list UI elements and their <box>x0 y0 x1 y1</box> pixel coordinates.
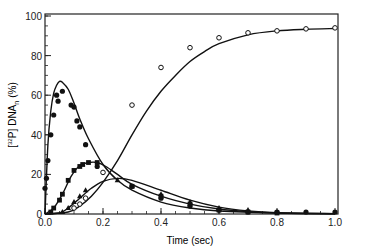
y-tick-label: 100 <box>25 11 42 22</box>
chart-canvas: 0.00.20.40.60.81.0020406080100 Time (sec… <box>0 0 372 251</box>
x-tick-label: 0.6 <box>212 217 226 228</box>
data-point-open-circle <box>101 170 106 175</box>
y-tick-label: 80 <box>31 51 43 62</box>
x-tick-label: 0.4 <box>154 217 168 228</box>
x-tick-label: 1.0 <box>328 217 342 228</box>
data-point-filled-square <box>95 160 100 165</box>
y-tick-label: 20 <box>31 169 43 180</box>
data-point-open-circle <box>333 26 338 31</box>
data-point-filled-square <box>72 168 77 173</box>
data-point-open-circle <box>78 202 83 207</box>
data-point-open-circle <box>246 31 251 36</box>
data-point-filled-circle <box>303 209 308 214</box>
data-point-filled-circle <box>55 99 60 104</box>
data-point-filled-circle <box>83 142 88 147</box>
data-point-filled-triangle <box>158 191 164 196</box>
data-point-filled-triangle <box>83 187 89 192</box>
data-point-open-circle <box>188 45 193 50</box>
data-point-open-circle <box>304 27 309 32</box>
data-point-filled-square <box>51 206 56 211</box>
plot-axes: 0.00.20.40.60.81.0020406080100 <box>25 11 342 228</box>
data-point-filled-circle <box>71 104 76 109</box>
y-axis-title: [32P]DNAn(%) <box>7 82 20 148</box>
x-tick-label: 0.2 <box>96 217 110 228</box>
data-point-filled-circle <box>332 209 337 214</box>
data-points <box>42 26 337 216</box>
data-point-filled-square <box>80 162 85 167</box>
data-point-filled-square <box>66 178 71 183</box>
plot-frame <box>45 14 338 214</box>
data-point-filled-square <box>60 192 65 197</box>
fitted-curves <box>45 28 335 214</box>
data-point-open-circle <box>275 29 280 34</box>
y-tick-label: 0 <box>36 209 42 220</box>
data-point-filled-triangle <box>245 207 251 212</box>
data-point-filled-circle <box>77 124 82 129</box>
data-point-filled-circle <box>60 89 65 94</box>
data-point-filled-circle <box>45 158 50 163</box>
data-point-filled-circle <box>54 93 59 98</box>
data-point-open-circle <box>83 196 88 201</box>
data-point-open-circle <box>217 35 222 40</box>
y-tick-label: 40 <box>31 130 43 141</box>
data-point-filled-circle <box>44 176 49 181</box>
x-axis-title: Time (sec) <box>167 235 214 246</box>
fitted-curve <box>45 28 335 214</box>
data-point-filled-square <box>86 160 91 165</box>
data-point-filled-circle <box>51 112 56 117</box>
data-point-open-circle <box>159 65 164 70</box>
fitted-curve <box>45 81 335 214</box>
data-point-open-circle <box>130 103 135 108</box>
x-tick-label: 0.8 <box>270 217 284 228</box>
data-point-open-circle <box>72 206 77 211</box>
data-point-filled-square <box>57 198 62 203</box>
y-tick-label: 60 <box>31 90 43 101</box>
data-point-filled-circle <box>48 132 53 137</box>
data-point-filled-circle <box>42 186 47 191</box>
data-point-filled-circle <box>74 118 79 123</box>
